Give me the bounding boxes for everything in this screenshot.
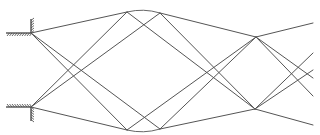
wall-supports [6, 18, 34, 122]
lens-arc-up [127, 10, 160, 13]
wall-support-a [6, 18, 34, 36]
exit-ray-r1 [256, 37, 313, 78]
wall-support-b [6, 104, 34, 122]
exit-ray-r2 [255, 70, 313, 109]
ray-t2-r2 [160, 13, 255, 109]
exit-rays [255, 23, 313, 125]
ray-a-b2 [31, 33, 160, 129]
ray-b-t1 [31, 12, 127, 107]
exit-ray-r1 [256, 23, 313, 37]
ray-lines [31, 12, 256, 130]
ray-diagram [0, 0, 320, 135]
exit-ray-r2 [255, 53, 313, 109]
lens-arcs [127, 10, 160, 132]
ray-t2-r1 [160, 13, 256, 37]
ray-a-t1 [31, 12, 127, 33]
exit-ray-r2 [255, 109, 313, 125]
ray-b2-r1 [160, 37, 256, 129]
ray-b1-r1 [127, 37, 256, 130]
ray-t1-r2 [127, 12, 255, 109]
ray-b2-r2 [160, 109, 255, 129]
exit-ray-r1 [256, 37, 313, 96]
ray-b-b1 [31, 107, 127, 130]
diagram-canvas [0, 0, 320, 135]
ray-b-t2 [31, 13, 160, 107]
lens-arc-down [127, 129, 160, 132]
